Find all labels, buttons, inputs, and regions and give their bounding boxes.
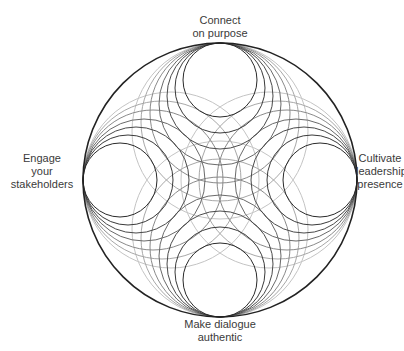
label-make-dialogue-authentic: Make dialogue authentic [160, 318, 280, 344]
label-line: presence [356, 178, 404, 191]
outer-circle [83, 43, 357, 317]
ring-circle-bottom [132, 141, 308, 317]
label-line: stakeholders [0, 178, 84, 191]
tangent-circle-groups [83, 43, 357, 317]
label-line: Connect [170, 14, 270, 27]
label-connect-on-purpose: Connect on purpose [170, 14, 270, 40]
label-line: Engage [0, 152, 84, 165]
ring-circle-left [83, 110, 223, 250]
ring-circle-left [83, 135, 173, 225]
ring-circle-right [217, 110, 357, 250]
label-line: Make dialogue [160, 318, 280, 331]
label-cultivate-leadership-presence: Cultivate leadership presence [356, 152, 404, 191]
label-line: Cultivate [356, 152, 404, 165]
ring-circle-left [83, 143, 157, 217]
ring-circle-bottom [183, 243, 257, 317]
label-line: authentic [160, 331, 280, 344]
ring-circle-right [267, 135, 357, 225]
label-engage-your-stakeholders: Engage your stakeholders [0, 152, 84, 191]
label-line: your [0, 165, 84, 178]
label-line: leadership [356, 165, 404, 178]
ring-circle-top [150, 43, 290, 183]
ring-circle-bottom [150, 177, 290, 317]
ring-circle-top [183, 43, 257, 117]
ring-circle-bottom [175, 227, 265, 317]
label-line: on purpose [170, 27, 270, 40]
ring-circle-top [175, 43, 265, 133]
ring-circle-right [283, 143, 357, 217]
ring-circle-left [83, 92, 259, 268]
ring-circle-right [181, 92, 357, 268]
ring-circle-top [132, 43, 308, 219]
